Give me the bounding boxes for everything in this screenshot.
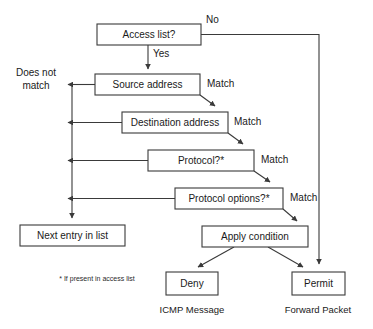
edge-label-does-not-match-line2: match (22, 80, 49, 91)
nodes-group: Access list? Source address Destination … (20, 24, 345, 295)
edge-options-match-to-apply (283, 209, 297, 221)
outcome-labels-group: ICMP Message Forward Packet (160, 304, 352, 315)
edge-source-match-to-dest (200, 95, 215, 106)
edge-protocol-match-to-options (254, 171, 270, 182)
node-next-entry-in-list[interactable]: Next entry in list (20, 225, 125, 246)
flowchart-canvas: Access list? Source address Destination … (0, 0, 373, 329)
node-permit-label: Permit (304, 278, 333, 289)
edge-label-match-protocol: Match (261, 154, 288, 165)
outcome-label-icmp-message: ICMP Message (160, 304, 225, 315)
node-permit[interactable]: Permit (292, 272, 345, 295)
node-protocol-options[interactable]: Protocol options?* (175, 188, 283, 209)
edge-label-no: No (206, 14, 219, 25)
edge-label-match-destination: Match (234, 116, 261, 127)
node-source-address-label: Source address (112, 79, 182, 90)
outcome-label-forward-packet: Forward Packet (285, 304, 352, 315)
node-destination-address-label: Destination address (131, 117, 219, 128)
node-protocol[interactable]: Protocol?* (148, 150, 254, 171)
node-source-address[interactable]: Source address (95, 74, 200, 95)
flowchart-diagram: Access list? Source address Destination … (0, 0, 373, 329)
node-apply-condition[interactable]: Apply condition (202, 226, 308, 247)
edge-label-yes: Yes (153, 48, 169, 59)
edge-label-match-source: Match (207, 78, 234, 89)
node-next-entry-in-list-label: Next entry in list (37, 230, 108, 241)
edge-apply-to-deny (198, 247, 234, 267)
node-access-list[interactable]: Access list? (97, 24, 201, 45)
edge-dest-match-to-protocol (228, 133, 243, 144)
node-destination-address[interactable]: Destination address (122, 112, 228, 133)
footnote-access-list: * If present in access list (59, 275, 135, 283)
node-apply-condition-label: Apply condition (221, 231, 289, 242)
node-deny-label: Deny (180, 278, 203, 289)
node-protocol-options-label: Protocol options?* (188, 193, 269, 204)
edge-apply-to-permit (268, 247, 303, 267)
edge-label-does-not-match-line1: Does not (16, 67, 56, 78)
node-access-list-label: Access list? (123, 29, 176, 40)
edge-label-match-protocol-options: Match (290, 192, 317, 203)
node-protocol-label: Protocol?* (178, 155, 224, 166)
node-deny[interactable]: Deny (166, 272, 218, 295)
